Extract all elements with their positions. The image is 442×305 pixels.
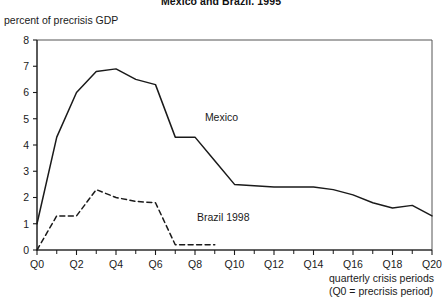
x-axis-caption: quarterly crisis periods (Q0 = precrisis… [329,272,434,298]
y-tick-label: 5 [23,113,29,125]
y-axis-ticks: 012345678 [23,34,37,256]
y-tick-label: 4 [23,139,29,151]
y-tick-label: 1 [23,218,29,230]
x-axis-caption-line1: quarterly crisis periods [329,272,434,285]
x-tick-label: Q12 [264,258,284,270]
chart-figure: Mexico and Brazil, 1995 percent of precr… [0,0,442,305]
series-labels-group: MexicoBrazil 1998 [197,111,250,223]
x-axis-ticks: Q0Q2Q4Q6Q8Q10Q12Q14Q16Q18Q20 [30,250,442,270]
y-tick-label: 6 [23,86,29,98]
series-line-mexico [37,69,432,224]
y-tick-label: 2 [23,191,29,203]
y-tick-label: 0 [23,244,29,256]
y-tick-label: 8 [23,34,29,46]
x-tick-label: Q20 [422,258,442,270]
x-axis-caption-line2: (Q0 = precrisis period) [329,285,434,298]
x-tick-label: Q2 [69,258,83,270]
y-tick-label: 3 [23,165,29,177]
x-tick-label: Q6 [148,258,162,270]
x-tick-label: Q0 [30,258,44,270]
plot-area: 012345678 Q0Q2Q4Q6Q8Q10Q12Q14Q16Q18Q20 M… [0,0,442,305]
y-tick-label: 7 [23,60,29,72]
x-tick-label: Q14 [304,258,324,270]
x-tick-label: Q8 [188,258,202,270]
x-tick-label: Q18 [383,258,403,270]
x-tick-label: Q16 [343,258,363,270]
series-label-mexico: Mexico [205,111,238,123]
x-tick-label: Q10 [225,258,245,270]
x-tick-label: Q4 [109,258,123,270]
series-line-brazil-1998 [37,190,215,250]
series-label-brazil-1998: Brazil 1998 [197,211,250,223]
